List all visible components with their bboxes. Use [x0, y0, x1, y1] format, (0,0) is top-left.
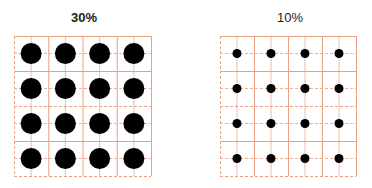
panel-title-10: 10%: [220, 10, 360, 25]
halftone-dot: [301, 119, 310, 128]
halftone-dot: [335, 154, 344, 163]
halftone-dot: [301, 84, 310, 93]
dot-grid-10: [220, 36, 356, 176]
halftone-dot: [21, 148, 42, 169]
halftone-dot: [89, 113, 110, 134]
halftone-dot: [335, 49, 344, 58]
halftone-dot: [89, 148, 110, 169]
halftone-dot: [267, 84, 276, 93]
halftone-dot: [55, 78, 76, 99]
halftone-dot: [267, 119, 276, 128]
halftone-dot: [267, 154, 276, 163]
halftone-dot: [335, 119, 344, 128]
halftone-dot: [55, 113, 76, 134]
dot-grid-30: [14, 36, 151, 176]
panel-title-30: 30%: [14, 10, 154, 25]
halftone-dot: [21, 78, 42, 99]
halftone-dot: [55, 43, 76, 64]
halftone-dot: [123, 43, 144, 64]
halftone-dot: [233, 119, 242, 128]
halftone-dot: [267, 49, 276, 58]
halftone-dot: [301, 154, 310, 163]
halftone-dot: [123, 113, 144, 134]
halftone-dot: [21, 113, 42, 134]
halftone-dot: [89, 43, 110, 64]
halftone-dot: [301, 49, 310, 58]
halftone-dot: [233, 49, 242, 58]
halftone-dot: [335, 84, 344, 93]
halftone-dot: [21, 43, 42, 64]
halftone-dot: [123, 78, 144, 99]
halftone-dot: [55, 148, 76, 169]
halftone-dot: [233, 154, 242, 163]
halftone-dot: [233, 84, 242, 93]
halftone-dot: [123, 148, 144, 169]
halftone-dot: [89, 78, 110, 99]
